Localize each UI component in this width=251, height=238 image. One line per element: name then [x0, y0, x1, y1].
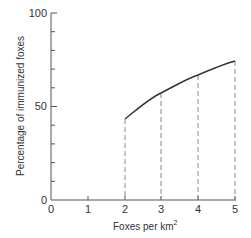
- x-tick-3: 3: [158, 203, 164, 215]
- drop-lines: [125, 61, 235, 200]
- y-tick-0: 0: [41, 194, 47, 206]
- y-tick-50: 50: [35, 100, 47, 112]
- x-tick-1: 1: [85, 203, 91, 215]
- y-axis-label: Percentage of immunized foxes: [15, 36, 26, 176]
- y-ticks: [51, 32, 57, 182]
- x-axis-label: Foxes per km2: [113, 219, 178, 232]
- data-curve: [125, 61, 235, 119]
- y-tick-100: 100: [29, 7, 47, 19]
- x-tick-0: 0: [48, 203, 54, 215]
- x-tick-4: 4: [195, 203, 201, 215]
- x-tick-2: 2: [122, 203, 128, 215]
- x-tick-5: 5: [232, 203, 238, 215]
- chart: 100 50 0 0 1 2 3 4 5 Foxes per km2 Perce…: [0, 0, 251, 238]
